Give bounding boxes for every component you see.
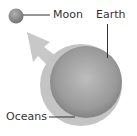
earth-label: Earth — [96, 9, 126, 21]
moon-label: Moon — [53, 9, 83, 21]
earth-sphere — [50, 46, 122, 118]
earth-moon-diagram: Moon Earth Oceans — [0, 0, 137, 136]
oceans-label: Oceans — [6, 111, 47, 123]
moon-sphere — [9, 9, 24, 24]
